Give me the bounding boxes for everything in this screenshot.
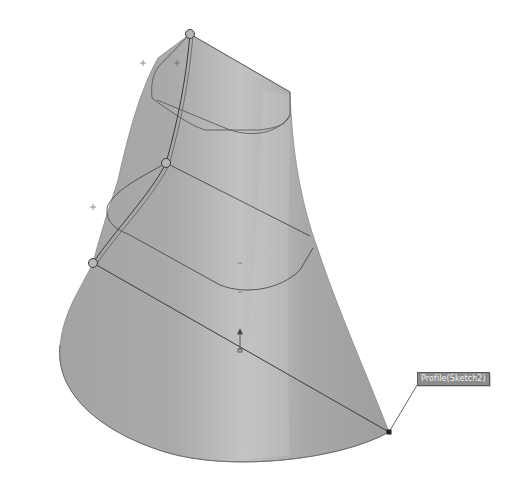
callout-leader-line: [389, 382, 419, 432]
cad-viewport[interactable]: Profile(Sketch2): [0, 0, 515, 501]
loft-preview-graphic: [0, 0, 515, 501]
guide-point-middle[interactable]: [162, 159, 171, 168]
callout-anchor-point[interactable]: [387, 430, 392, 435]
guide-point-top[interactable]: [186, 30, 195, 39]
loft-body-surface[interactable]: [60, 34, 389, 462]
profile-callout-label[interactable]: Profile(Sketch2): [417, 372, 490, 386]
guide-point-bottom[interactable]: [89, 259, 98, 268]
plus-marker-icon: [90, 204, 96, 210]
plus-marker-icon: [140, 60, 146, 66]
